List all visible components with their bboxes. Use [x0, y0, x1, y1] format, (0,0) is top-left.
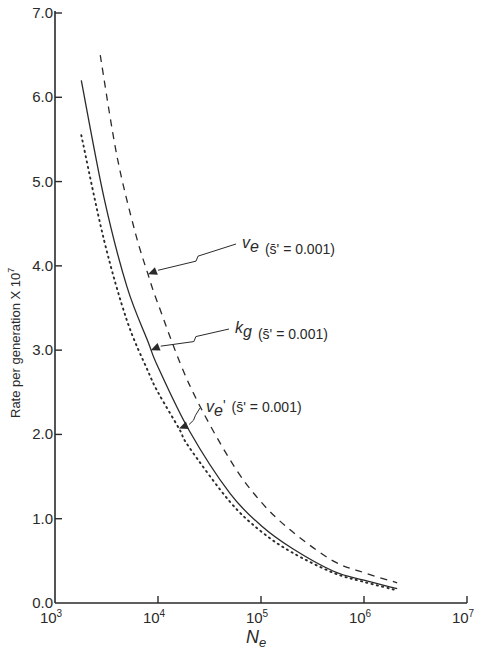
annotations: ve(s̄' = 0.001)kg(s̄' = 0.001)ve'(s̄' = …	[148, 234, 335, 429]
arrowhead-icon	[148, 267, 158, 274]
annotation-leader-line	[158, 244, 236, 270]
y-tick-label: 2.0	[32, 425, 53, 442]
curve-annotation-label: ve'(s̄' = 0.001)	[206, 397, 302, 419]
x-tick-label: 105	[246, 608, 269, 626]
rate-vs-ne-chart: 0.01.02.03.04.05.06.07.0103104105106107 …	[0, 0, 478, 653]
curve-annotation-label: kg(s̄' = 0.001)	[235, 319, 328, 342]
x-axis-label: Ne	[246, 627, 266, 650]
x-tick-label: 103	[40, 608, 63, 626]
arrowhead-icon	[179, 421, 189, 428]
y-tick-label: 4.0	[32, 257, 53, 274]
arrowhead-icon	[151, 343, 161, 350]
axes: 0.01.02.03.04.05.06.07.0103104105106107	[32, 4, 474, 626]
curve-annotation-label: ve(s̄' = 0.001)	[242, 234, 335, 257]
y-tick-label: 1.0	[32, 510, 53, 527]
curve-dotted	[81, 135, 397, 590]
x-tick-label: 106	[349, 608, 372, 626]
y-tick-label: 3.0	[32, 341, 53, 358]
curve-dashed	[100, 55, 397, 583]
x-tick-label: 107	[452, 608, 475, 626]
x-tick-label: 104	[143, 608, 166, 626]
annotation-leader-line	[189, 408, 200, 425]
y-axis-label: Rate per generation X 107	[6, 268, 23, 418]
y-tick-label: 7.0	[32, 4, 53, 21]
y-tick-label: 6.0	[32, 88, 53, 105]
y-tick-label: 5.0	[32, 173, 53, 190]
